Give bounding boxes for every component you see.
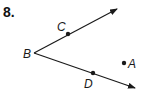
- label-b: B: [23, 47, 31, 61]
- point-a-dot: [122, 61, 126, 65]
- point-d-dot: [91, 71, 95, 75]
- label-a: A: [127, 57, 136, 71]
- angle-diagram: B C D A: [0, 0, 146, 97]
- ray-bc: [34, 9, 117, 53]
- label-d: D: [84, 77, 93, 91]
- point-c-dot: [66, 32, 70, 36]
- label-c: C: [57, 20, 66, 34]
